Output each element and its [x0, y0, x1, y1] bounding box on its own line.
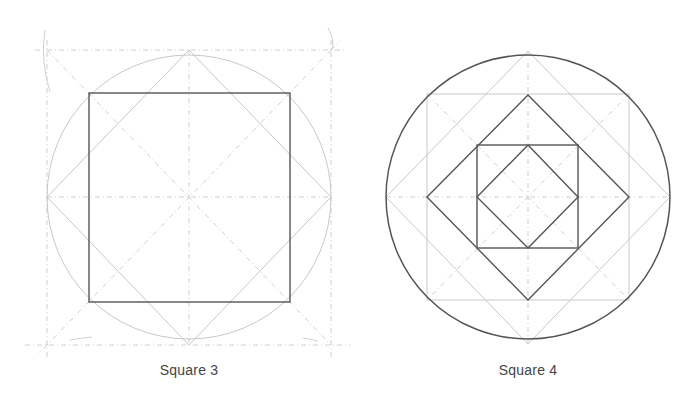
compass-arc: [70, 337, 92, 340]
diagram-canvas: [0, 0, 698, 401]
square-3-caption: Square 3: [119, 362, 259, 378]
square-3-figure: [25, 28, 350, 358]
square-4-caption: Square 4: [458, 362, 598, 378]
diagonal-ext: [38, 345, 47, 354]
square-4-figure: [386, 51, 670, 344]
compass-arc: [303, 338, 318, 341]
compass-arc: [328, 28, 333, 50]
